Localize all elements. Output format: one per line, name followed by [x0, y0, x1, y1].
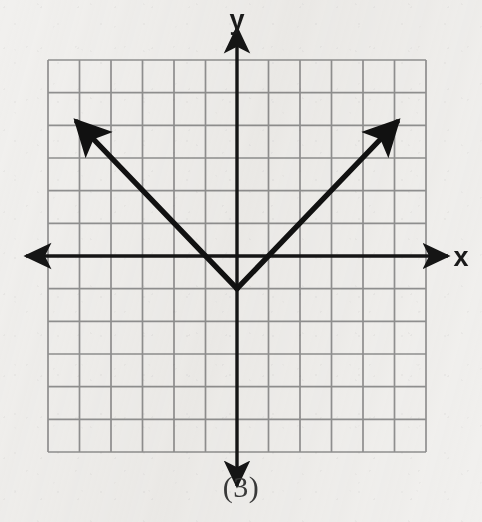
y-axis-label: y: [229, 5, 244, 35]
figure-caption: (3): [0, 470, 482, 504]
v-graph-right-ray: [237, 122, 397, 289]
coordinate-plane-svg: y x: [0, 0, 482, 522]
x-axis-label: x: [453, 242, 468, 272]
graph-figure: y x (3): [0, 0, 482, 522]
v-graph-left-ray: [77, 122, 237, 289]
